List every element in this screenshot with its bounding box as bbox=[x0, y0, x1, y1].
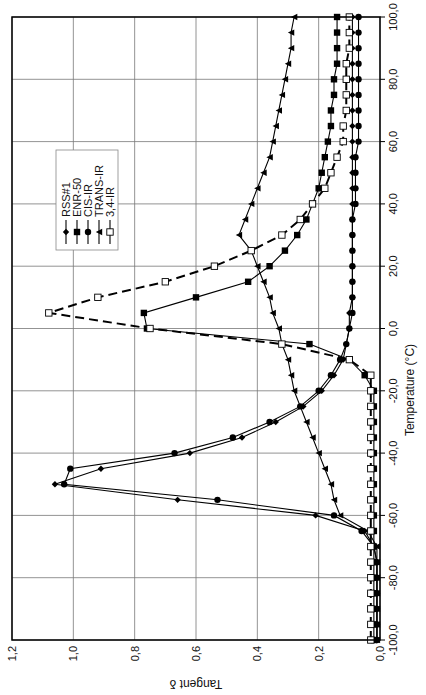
y-tick-label: 0,8 bbox=[129, 646, 141, 661]
legend: RSS#1ENR-50CIS-IRTRANS-IR3,4-IR bbox=[56, 150, 118, 250]
x-tick-label: 100,0 bbox=[387, 3, 399, 31]
x-tick-label: 0,0 bbox=[387, 321, 399, 336]
y-tick-label: 1,2 bbox=[6, 646, 18, 661]
x-tick-label: -20,0 bbox=[387, 378, 399, 403]
y-tick-label: 0,0 bbox=[374, 646, 386, 661]
axis-ticks: 0,00,20,40,60,81,01,2-100,0-80,0-60,0-40… bbox=[6, 3, 399, 661]
x-tick-label: 60,0 bbox=[387, 131, 399, 152]
x-tick-label: -40,0 bbox=[387, 441, 399, 466]
y-axis-title: Tangent δ bbox=[169, 677, 222, 691]
tan-delta-chart: 0,00,20,40,60,81,01,2-100,0-80,0-60,0-40… bbox=[0, 0, 426, 695]
legend-entry: 3,4-IR bbox=[104, 187, 116, 217]
y-tick-label: 0,4 bbox=[251, 646, 263, 661]
x-tick-label: 40,0 bbox=[387, 193, 399, 214]
y-tick-label: 0,6 bbox=[190, 646, 202, 661]
x-tick-label: -80,0 bbox=[387, 565, 399, 590]
x-tick-label: 20,0 bbox=[387, 255, 399, 276]
x-axis-title: Temperature (°C) bbox=[403, 344, 417, 436]
grid-lines bbox=[12, 17, 380, 640]
x-tick-label: 80,0 bbox=[387, 69, 399, 90]
x-tick-label: -60,0 bbox=[387, 503, 399, 528]
y-tick-label: 1,0 bbox=[67, 646, 79, 661]
y-tick-label: 0,2 bbox=[313, 646, 325, 661]
x-tick-label: -100,0 bbox=[387, 624, 399, 655]
